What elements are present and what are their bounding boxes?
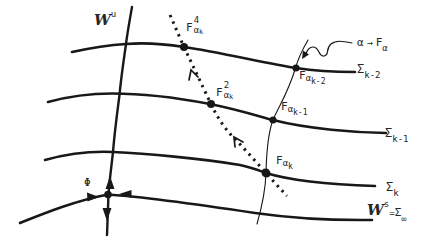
dot-f-alpha-k [262, 169, 271, 178]
manifold-diagram: W u F 4 α k F 2 α k F α k-2 F α [0, 0, 424, 244]
label-f2-exp: 2 [224, 81, 229, 90]
dot-saddle-fixed-point [104, 191, 112, 199]
label-fak-subsub: k [288, 163, 293, 171]
family-map-sub: α [382, 44, 387, 53]
dot-f4-alpha-k [180, 43, 188, 51]
sigma-k-1-base: Σ [385, 127, 392, 139]
orbit-dotted-line [170, 15, 287, 196]
unstable-manifold-w: W [94, 13, 111, 28]
sigma-k-1-label: Σ k-1 [385, 127, 409, 144]
saddle-arrow-right [87, 193, 99, 202]
label-fak1-subsub: k-1 [293, 109, 307, 117]
label-f4-subsub: k [199, 29, 203, 36]
label-f-alpha-k-2: F α k-2 [299, 64, 326, 86]
label-f-alpha-k-1: F α k-1 [281, 95, 308, 117]
sigma-k-base: Σ [386, 181, 393, 193]
maps-to-arrow-icon: → [367, 38, 373, 48]
stable-manifold-sigma: Σ [395, 207, 402, 218]
saddle-arrow-down [103, 208, 112, 221]
orbit-arrowhead-lower [234, 137, 243, 147]
family-map-param: α [357, 37, 364, 48]
family-map-squiggle-arrow [304, 41, 352, 57]
label-f2-base: F [216, 87, 223, 98]
curve-sigma-k [45, 152, 375, 186]
sigma-k-label: Σ k [386, 181, 399, 198]
sigma-k-2-label: Σ k-2 [357, 63, 381, 80]
sigma-k-2-base: Σ [357, 63, 364, 75]
dot-f2-alpha-k [207, 100, 215, 108]
orbit-arrowhead-upper [189, 70, 198, 80]
label-f2-subsub: k [229, 94, 233, 101]
label-f4-alpha-k: F 4 α k [186, 16, 203, 36]
family-map-arrow-tip [302, 51, 309, 60]
dot-f-alpha-k-1 [269, 116, 276, 123]
label-f2-alpha-k: F 2 α k [216, 81, 233, 101]
family-map-label: α → F α [357, 37, 388, 53]
label-fak-base: F [276, 155, 283, 166]
line-unstable-manifold [107, 7, 132, 235]
label-f4-exp: 4 [194, 16, 199, 25]
unstable-manifold-sup: u [111, 10, 116, 19]
label-fak2-subsub: k-2 [311, 78, 325, 86]
label-fak2-base: F [299, 70, 306, 81]
sigma-k-1-sub: k-1 [392, 135, 408, 144]
sigma-k-2-sub: k-2 [364, 71, 380, 80]
stable-manifold-inf: ∞ [401, 215, 406, 224]
curve-stable-manifold [20, 195, 372, 224]
fixed-point-phi: Φ [84, 177, 91, 188]
fixed-point-label: Φ [84, 177, 91, 188]
label-f4-base: F [186, 22, 193, 33]
stable-manifold-label: W s = Σ ∞ [367, 203, 407, 224]
family-map-base: F [376, 37, 383, 48]
label-fak1-base: F [281, 101, 288, 112]
unstable-manifold-label: W u [94, 13, 116, 28]
saddle-arrow-up [106, 176, 115, 189]
sigma-k-sub: k [393, 189, 398, 198]
label-f-alpha-k: F α k [276, 149, 293, 171]
stable-manifold-w: W [367, 203, 384, 218]
